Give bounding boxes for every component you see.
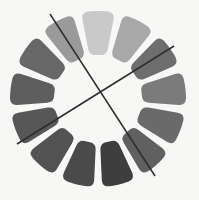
figure-canvas [0, 0, 199, 200]
ring-diagram [0, 0, 199, 200]
